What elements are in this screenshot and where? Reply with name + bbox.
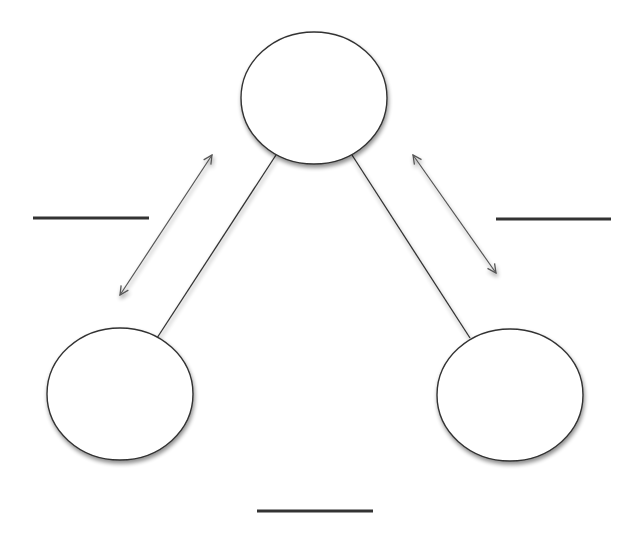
edge-top-right: [352, 155, 470, 338]
connector-lines: [157, 155, 470, 396]
node-left-circle[interactable]: [47, 328, 193, 460]
node-right-circle[interactable]: [437, 329, 583, 461]
right-arrow-icon: [413, 155, 496, 273]
edge-top-left: [157, 155, 276, 338]
triangle-diagram: [0, 0, 641, 540]
node-top-circle[interactable]: [241, 32, 387, 164]
